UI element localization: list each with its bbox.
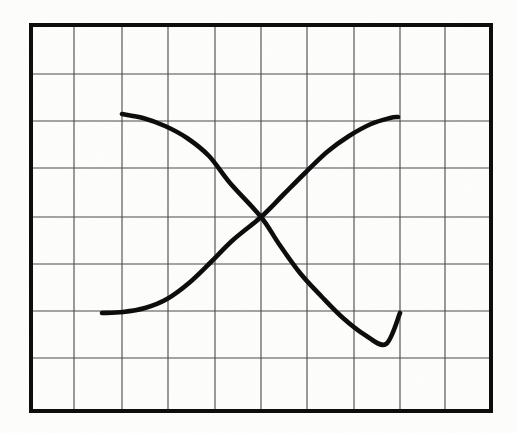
graph-figure: descending-curve ascending-curve curves-… xyxy=(0,0,517,433)
graph-canvas xyxy=(0,0,517,433)
